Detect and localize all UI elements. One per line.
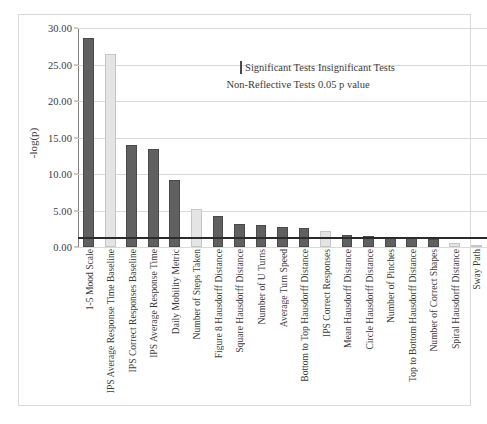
gridline xyxy=(78,101,487,102)
legend-label: Non-Reflective Tests xyxy=(226,79,315,90)
y-tick-mark xyxy=(74,101,78,102)
legend-label: Insignificant Tests xyxy=(318,62,395,73)
x-tick-label: Bottom to Top Hausdorff Distance xyxy=(299,249,310,382)
y-tick-label: 20.00 xyxy=(48,96,72,107)
x-tick-label: Top to Bottom Hausdorff Distance xyxy=(407,249,418,382)
chart-legend: Significant Tests Insignificant Tests No… xyxy=(187,59,457,93)
y-tick-mark xyxy=(74,174,78,175)
x-tick-label: Circle Hausdorff Distance xyxy=(364,249,375,350)
bar xyxy=(148,149,159,247)
bar xyxy=(320,231,331,247)
threshold-line-0p05 xyxy=(78,237,487,239)
y-tick-label: 10.00 xyxy=(48,169,72,180)
legend-item-insignificant-tests: Insignificant Tests xyxy=(315,62,457,73)
bar xyxy=(105,54,116,247)
bar xyxy=(406,238,417,247)
gridline xyxy=(78,174,487,175)
bar xyxy=(234,224,245,247)
chart-frame: -log(p) 0.005.0010.0015.0020.0025.0030.0… xyxy=(18,14,471,406)
bar xyxy=(449,243,460,247)
x-tick-label: Square Hausdorff Distance xyxy=(234,249,245,353)
y-tick-label: 15.00 xyxy=(48,132,72,143)
x-tick-label: Sway Path xyxy=(471,249,482,290)
x-tick-label: Number of Steps Taken xyxy=(191,249,202,340)
x-tick-label: Number of U Turns xyxy=(256,249,267,324)
x-tick-label: 1-5 Mood Scale xyxy=(84,249,95,310)
y-tick-label: 5.00 xyxy=(53,205,72,216)
legend-label: Significant Tests xyxy=(245,62,315,73)
y-tick-mark xyxy=(74,247,78,248)
x-tick-label: IPS Correct Responses xyxy=(321,249,332,337)
legend-item-non-reflective-tests: Non-Reflective Tests xyxy=(187,79,315,90)
gridline xyxy=(78,28,487,29)
x-tick-label: Spiral Hausdorff Distance xyxy=(450,249,461,349)
bar xyxy=(471,245,482,247)
gridline xyxy=(78,247,487,248)
y-tick-mark xyxy=(74,64,78,65)
y-tick-label: 25.00 xyxy=(48,59,72,70)
x-tick-label: Number of Pinches xyxy=(385,249,396,323)
legend-row: Non-Reflective Tests 0.05 p value xyxy=(187,76,457,93)
x-tick-label: IPS Correct Responses Baseline xyxy=(127,249,138,372)
x-tick-label: Mean Hausdorff Distance xyxy=(342,249,353,348)
bar xyxy=(126,145,137,247)
x-tick-label: Daily Mobility Metric xyxy=(170,249,181,334)
x-tick-label: Figure 8 Hausdorff Distance xyxy=(213,249,224,358)
y-axis-label: -log(p) xyxy=(27,128,39,159)
gridline xyxy=(78,138,487,139)
bar xyxy=(213,216,224,247)
gridline xyxy=(78,211,487,212)
bar xyxy=(83,38,94,247)
x-tick-label: Average Turn Speed xyxy=(278,249,289,327)
y-tick-mark xyxy=(74,210,78,211)
legend-swatch-box-icon xyxy=(240,62,242,73)
x-axis-labels: 1-5 Mood ScaleIPS Average Response Time … xyxy=(78,249,487,409)
y-tick-mark xyxy=(74,137,78,138)
bar xyxy=(428,239,439,247)
legend-item-significant-tests: Significant Tests xyxy=(187,62,315,73)
bar xyxy=(191,209,202,247)
x-tick-label: IPS Average Response Time xyxy=(148,249,159,358)
legend-item-0p05-p-value: 0.05 p value xyxy=(315,79,457,90)
x-tick-label: IPS Average Response Time Baseline xyxy=(105,249,116,393)
legend-label: 0.05 p value xyxy=(318,79,370,90)
x-tick-label: Number of Correct Shapes xyxy=(428,249,439,352)
y-tick-label: 30.00 xyxy=(48,23,72,34)
y-tick-label: 0.00 xyxy=(53,242,72,253)
y-tick-mark xyxy=(74,28,78,29)
bar xyxy=(385,238,396,247)
legend-row: Significant Tests Insignificant Tests xyxy=(187,59,457,76)
